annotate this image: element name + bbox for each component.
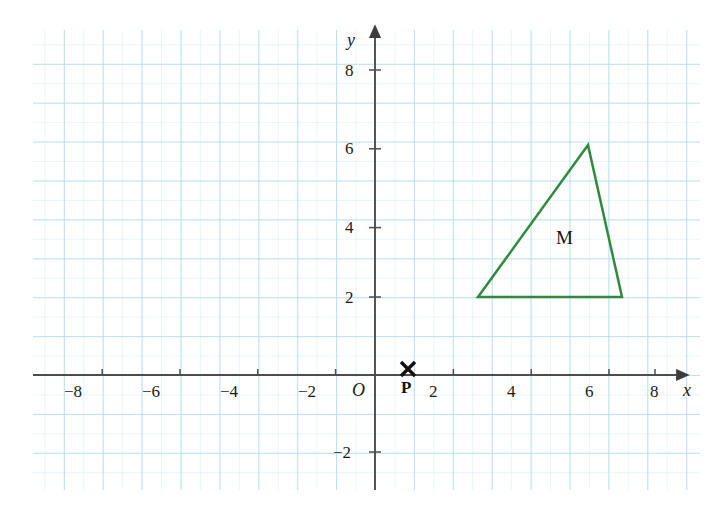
coordinate-grid-figure: −8 −6 −4 −2 2 4 6 8 −2 2 4 6 8 O x y M P [0, 0, 728, 515]
x-tick-label-neg8: −8 [64, 383, 82, 400]
x-tick-label-4: 4 [507, 383, 516, 400]
y-tick-label-neg2: −2 [333, 444, 351, 461]
y-tick-label-8: 8 [345, 62, 354, 79]
x-tick-label-8: 8 [650, 383, 659, 400]
triangle-m-label: M [556, 228, 573, 247]
x-tick-label-neg6: −6 [142, 383, 160, 400]
x-tick-label-6: 6 [585, 383, 594, 400]
grid-lines [33, 30, 700, 490]
x-tick-label-2: 2 [429, 383, 438, 400]
origin-label: O [352, 381, 365, 399]
graph-canvas [0, 0, 728, 515]
y-tick-label-4: 4 [345, 219, 354, 236]
x-tick-label-neg4: −4 [220, 383, 238, 400]
y-axis-label: y [347, 31, 355, 49]
x-tick-label-neg2: −2 [298, 383, 316, 400]
point-p-label: P [401, 379, 411, 396]
x-axis-label: x [683, 381, 691, 399]
y-tick-label-6: 6 [345, 140, 354, 157]
y-tick-label-2: 2 [345, 289, 354, 306]
